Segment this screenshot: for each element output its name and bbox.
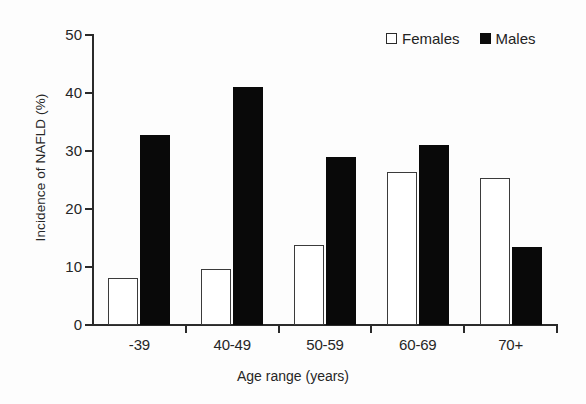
bar-males-60-69 <box>419 145 449 325</box>
y-axis-tick-label: 0 <box>46 317 82 332</box>
y-axis-tick-label: 40 <box>46 85 82 100</box>
y-axis-tick-label: 20 <box>46 201 82 216</box>
x-axis-tick <box>556 325 558 333</box>
x-axis-tick-label: 70+ <box>456 336 566 353</box>
figure-container: Females Males Incidence of NAFLD (%) 010… <box>0 0 586 404</box>
plot-area <box>93 35 557 325</box>
x-axis-tick <box>370 325 372 333</box>
y-axis-tick <box>85 266 93 268</box>
bar-females-40-49 <box>201 269 231 325</box>
y-axis-tick-label: 30 <box>46 143 82 158</box>
x-axis-tick <box>463 325 465 333</box>
bar-males-40-49 <box>233 87 263 325</box>
y-axis-tick-label: 10 <box>46 259 82 274</box>
bar-males-70plus <box>512 247 542 325</box>
y-axis-tick <box>85 92 93 94</box>
bar-females-50-59 <box>294 245 324 325</box>
x-axis-tick <box>185 325 187 333</box>
y-axis-tick-label: 50 <box>46 27 82 42</box>
bar-females--39 <box>108 278 138 325</box>
bar-males-50-59 <box>326 157 356 325</box>
bar-males--39 <box>140 135 170 325</box>
x-axis-title: Age range (years) <box>0 368 586 384</box>
y-axis-tick <box>85 324 93 326</box>
x-axis-tick <box>278 325 280 333</box>
y-axis-tick <box>85 34 93 36</box>
bar-females-70plus <box>480 178 510 325</box>
y-axis-tick <box>85 208 93 210</box>
bar-females-60-69 <box>387 172 417 325</box>
y-axis-tick <box>85 150 93 152</box>
